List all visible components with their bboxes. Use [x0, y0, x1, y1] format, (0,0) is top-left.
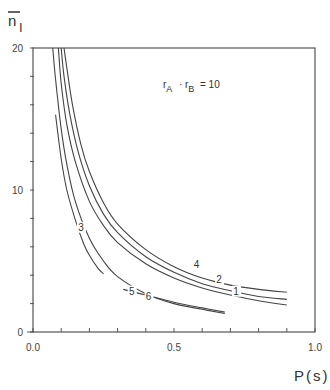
- curve-label-2: 2: [216, 274, 222, 285]
- plot-border: [33, 48, 315, 332]
- curve-5: [53, 48, 225, 314]
- x-tick-label: 1.0: [308, 342, 322, 353]
- curve-label-4: 4: [194, 259, 200, 270]
- x-tick-label: 0.5: [167, 342, 181, 353]
- curve-4: [64, 48, 287, 292]
- curve-labels: 124536: [77, 222, 241, 303]
- y-axis-title-main: n: [8, 12, 16, 29]
- plot-frame: [33, 48, 315, 332]
- y-axis-title-sub: I: [19, 20, 23, 35]
- curve-label-6: 6: [146, 291, 152, 302]
- annotation-r-b: rB: [185, 79, 194, 94]
- y-tick-label: 10: [12, 185, 24, 196]
- chart: 0.00.51.001020 124536 n I P(s) rA · rB =…: [0, 0, 330, 390]
- curve-2: [61, 48, 287, 299]
- curve-label-1: 1: [233, 286, 239, 297]
- annotation-value: = 10: [200, 79, 220, 90]
- curve-label-5: 5: [129, 286, 135, 297]
- y-tick-label: 0: [17, 327, 23, 338]
- y-tick-label: 20: [12, 43, 24, 54]
- curve-label-3: 3: [78, 222, 84, 233]
- ratio-annotation: rA · rB = 10: [163, 79, 220, 94]
- x-axis-title: P(s): [294, 367, 330, 384]
- annotation-dot: ·: [179, 79, 182, 90]
- annotation-r-a: rA: [163, 79, 172, 94]
- curve-6: [123, 289, 225, 312]
- x-tick-label: 0.0: [26, 342, 40, 353]
- y-axis-title: n I: [8, 12, 23, 35]
